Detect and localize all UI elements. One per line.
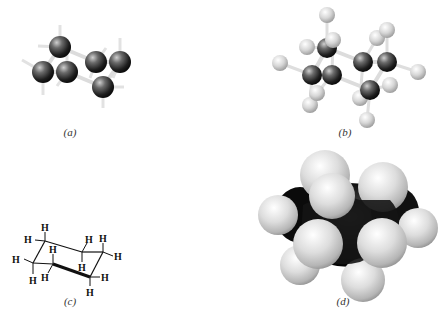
hydrogen-atom	[379, 22, 395, 38]
carbon-atom	[377, 52, 397, 72]
carbon-atom	[56, 61, 78, 83]
hydrogen-atom	[272, 55, 288, 71]
hydrogen-label: H	[49, 244, 57, 255]
caption-d: (d)	[337, 295, 350, 307]
hydrogen-label: H	[24, 234, 32, 245]
carbon-atom	[360, 80, 380, 100]
c-h-bonds	[280, 15, 418, 120]
carbon-atom	[49, 36, 71, 58]
carbon-atom	[85, 51, 107, 73]
hydrogen-label: H	[41, 222, 49, 233]
caption-a: (a)	[64, 126, 77, 138]
carbon-atom	[353, 52, 373, 72]
hydrogen-atom	[293, 219, 343, 269]
hydrogen-label: H	[78, 262, 86, 273]
panel-b-ball-and-stick-hydrogens	[272, 7, 426, 128]
hydrogen-label: H	[86, 287, 94, 298]
hydrogen-label: H	[85, 234, 93, 245]
carbon-atom	[32, 61, 54, 83]
hydrogen-label: H	[114, 251, 122, 262]
hydrogen-atom	[359, 112, 375, 128]
cyclohexane-figure: H H H H H H H H H H H H	[0, 0, 443, 315]
panel-c-line-structure: H H H H H H H H H H H H	[12, 222, 122, 298]
hydrogen-atom	[357, 218, 407, 268]
panel-d-space-filling	[258, 150, 438, 302]
hydrogen-atom	[319, 7, 335, 23]
caption-b: (b)	[339, 126, 352, 138]
hydrogen-atom	[325, 32, 341, 48]
carbon-atom	[322, 65, 342, 85]
hydrogen-atom	[258, 195, 298, 235]
hydrogen-label: H	[41, 272, 49, 283]
panel-a-ball-and-stick	[22, 25, 131, 108]
hydrogen-atom	[309, 85, 325, 101]
carbon-atom	[302, 65, 322, 85]
hydrogen-label: H	[29, 275, 37, 286]
hydrogen-atom	[299, 39, 315, 55]
hydrogen-label: H	[101, 272, 109, 283]
carbon-atom	[109, 51, 131, 73]
hydrogen-atom	[382, 77, 398, 93]
hydrogen-label: H	[12, 254, 20, 265]
hydrogen-label: H	[99, 233, 107, 244]
caption-c: (c)	[64, 295, 76, 307]
hydrogen-atom	[309, 173, 355, 219]
hydrogen-atom	[410, 64, 426, 80]
carbon-atom	[92, 76, 114, 98]
